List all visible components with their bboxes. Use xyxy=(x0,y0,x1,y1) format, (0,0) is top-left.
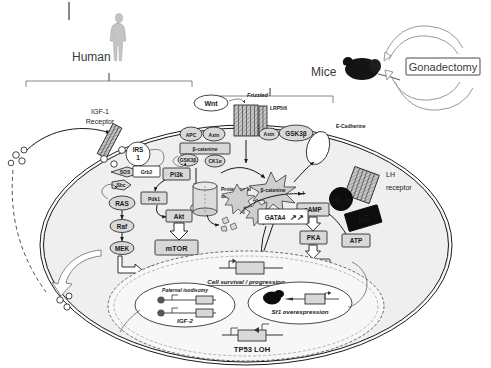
shc-label: Shc xyxy=(116,182,125,188)
gata4-up-arrows: ↗↗ xyxy=(290,213,304,222)
mek-label: MEK xyxy=(115,245,130,252)
cell-survival-label: Cell survival / progression xyxy=(207,278,285,285)
secreted-ligand xyxy=(64,304,70,310)
igf-ligand xyxy=(19,158,25,164)
bcatenin-complex-label: β-catenine xyxy=(192,146,217,152)
gsk3b-membrane-label: GSK3β xyxy=(285,130,306,138)
receptor-phospho-site xyxy=(101,156,108,163)
human-icon xyxy=(110,14,126,61)
igf1r-label-line1: IGF-1 xyxy=(91,108,109,115)
lh-receptor-label-2: receptor xyxy=(386,184,412,192)
isodisomy-label: Paternal isodisomy xyxy=(162,287,208,293)
pathway-diagram: Human Mice Gonadectomy xyxy=(0,0,491,368)
proteasome xyxy=(193,182,217,216)
secreted-ligand xyxy=(57,297,63,303)
igf2-label: IGF-2 xyxy=(177,317,193,324)
tp53-label: TP53 LOH xyxy=(234,345,270,354)
lrp56-label: LRP5/6 xyxy=(270,105,287,111)
akt-label: Akt xyxy=(174,213,185,220)
gata4-label: GATA4 xyxy=(265,214,286,221)
mtor-label: mTOR xyxy=(165,244,188,253)
axin-label: Axin xyxy=(209,132,220,138)
nucleus: Cell survival / progression Paternal iso… xyxy=(108,251,384,361)
apc-label: APC xyxy=(186,132,197,138)
pdk1-label: Pdk1 xyxy=(148,196,160,202)
ligand-to-receptor-arrow xyxy=(27,129,110,150)
sf1-marks: ˮ xyxy=(348,305,351,311)
secreted-ligand xyxy=(66,293,72,299)
lh-receptor-label-1: LH xyxy=(386,171,395,178)
gsalpha-label: G xyxy=(335,196,341,205)
sf1-label: Sf1 overexpression xyxy=(271,308,328,315)
pka-label: PKA xyxy=(307,234,321,241)
igf-ligand xyxy=(8,160,14,166)
grb2-label: Grb2 xyxy=(141,169,153,175)
label-mice: Mice xyxy=(311,65,337,79)
gsalpha-alpha: α xyxy=(346,197,350,204)
sf1-group xyxy=(248,282,352,324)
gsk3b-complex-label: GSK3β xyxy=(180,157,197,163)
igf-ligand xyxy=(21,147,27,153)
bcatenin-free-label: β-catenine xyxy=(260,187,285,193)
sos-label: SOS xyxy=(120,169,131,175)
frizzled-label: Frizzled xyxy=(247,92,268,98)
receptor-phospho-site xyxy=(119,147,126,154)
figure-canvas: Human Mice Gonadectomy xyxy=(0,0,491,368)
pi3k-label: Pi3k xyxy=(170,171,184,178)
wnt-label: Wnt xyxy=(204,100,218,107)
atp-label: ATP xyxy=(350,237,363,244)
label-human: Human xyxy=(72,50,111,64)
igf1r-label-line2: Receptor xyxy=(86,118,115,126)
frizzled-receptor[interactable] xyxy=(234,105,258,136)
wnt-binding-arrow xyxy=(229,99,245,103)
gonadectomy-label: Gonadectomy xyxy=(409,61,478,73)
irs1-label-1: IRS xyxy=(133,146,144,153)
axin-membrane-label: Axin xyxy=(264,131,275,137)
ecadherin-label-text: E-Cadherine xyxy=(336,123,366,129)
ck1a-label: CK1α xyxy=(208,158,222,164)
ras-label: RAS xyxy=(115,200,129,207)
raf-label: Raf xyxy=(117,223,128,230)
human-bracket xyxy=(26,81,192,87)
adapter-dot xyxy=(111,161,117,167)
igf-ligand xyxy=(13,152,20,159)
irs1-label-2: 1 xyxy=(136,154,140,161)
